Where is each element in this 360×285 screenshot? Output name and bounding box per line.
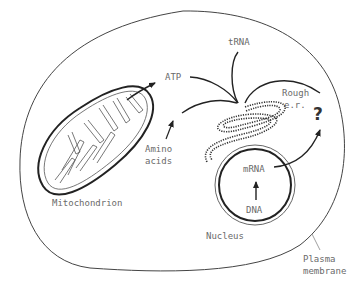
trna-curve bbox=[232, 52, 238, 103]
label-amino-2: acids bbox=[145, 156, 172, 166]
label-atp: ATP bbox=[165, 72, 182, 82]
plasma-membrane-outline bbox=[20, 11, 345, 271]
label-plasma-2: membrane bbox=[303, 266, 346, 276]
label-amino-1: Amino bbox=[145, 144, 172, 154]
label-mrna: mRNA bbox=[243, 164, 265, 174]
plasma-pointer-line bbox=[312, 234, 320, 250]
atp-to-er-curve bbox=[190, 77, 238, 103]
label-mitochondrion: Mitochondrion bbox=[52, 198, 122, 208]
mitochondrion bbox=[38, 86, 153, 194]
label-rough-er-1: Rough bbox=[282, 88, 309, 98]
label-dna: DNA bbox=[246, 205, 263, 215]
label-rough-er-2: e.r. bbox=[284, 100, 306, 110]
label-trna: tRNA bbox=[228, 37, 250, 47]
amino-to-er-curve bbox=[182, 100, 237, 113]
label-question-mark: ? bbox=[313, 104, 323, 124]
amino-arrow bbox=[166, 121, 173, 139]
cell-diagram: ATP tRNA Rough e.r. ? Amino acids Mitoch… bbox=[0, 0, 360, 285]
label-nucleus: Nucleus bbox=[206, 231, 244, 241]
label-plasma-1: Plasma bbox=[303, 254, 336, 264]
